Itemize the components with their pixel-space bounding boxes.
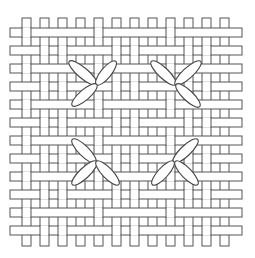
weave-diagram [0,0,255,258]
horizontal-strip [10,172,242,181]
horizontal-strip [10,64,242,73]
horizontal-strip [10,136,242,145]
horizontal-strip [10,208,242,217]
horizontal-strip [10,100,242,109]
horizontal-strip [10,28,242,37]
